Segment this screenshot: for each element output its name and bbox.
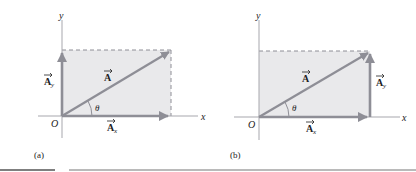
svg-text:x: x [312, 128, 317, 136]
vector-a-label: A [302, 70, 310, 84]
y-component-label: A y [376, 74, 387, 90]
origin-label: O [248, 119, 255, 130]
svg-text:x: x [113, 127, 118, 135]
y-axis-label: y [58, 10, 64, 21]
panel-b-caption: (b) [230, 150, 241, 160]
origin-label: O [51, 118, 58, 129]
y-component-label: A y [44, 73, 55, 89]
angle-label: θ [95, 103, 100, 113]
svg-text:A: A [302, 73, 310, 84]
x-axis-label: x [401, 112, 407, 123]
svg-text:A: A [104, 72, 112, 83]
panel-b: y x O θ A A x A y (b) [230, 10, 407, 160]
vector-a-label: A [104, 69, 112, 83]
x-axis-label: x [200, 111, 206, 122]
x-component-label: A x [306, 120, 317, 136]
y-axis-label: y [255, 10, 261, 21]
angle-label: θ [292, 103, 297, 113]
x-component-label: A x [107, 119, 118, 135]
panel-a: y x O θ A A x A y (a) [34, 10, 206, 160]
svg-text:y: y [382, 82, 387, 90]
vector-components-figure: y x O θ A A x A y (a) y x [0, 0, 416, 172]
svg-text:y: y [50, 81, 55, 89]
panel-a-caption: (a) [34, 150, 44, 160]
